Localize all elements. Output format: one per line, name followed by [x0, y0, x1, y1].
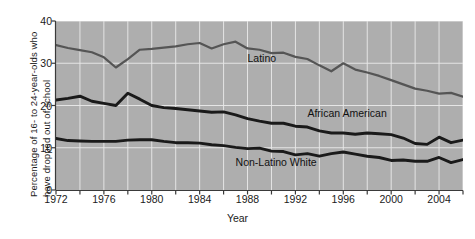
x-tick-label: 1996 [332, 193, 355, 205]
y-tick-label: 10 [30, 142, 52, 154]
y-tick-label: 30 [30, 57, 52, 69]
series-label-non-latino-white: Non-Latino White [236, 156, 317, 168]
x-tick-label: 1972 [44, 193, 67, 205]
y-tick-label: 20 [30, 100, 52, 112]
x-tick-label: 1984 [188, 193, 211, 205]
x-tick-label: 1980 [140, 193, 163, 205]
y-tick-label: 40 [30, 15, 52, 27]
x-tick-label: 1988 [236, 193, 259, 205]
x-tick-label: 1992 [284, 193, 307, 205]
series-line-latino [56, 42, 463, 97]
x-axis-label: Year [0, 212, 475, 224]
series-label-african-american: African American [307, 107, 386, 119]
x-tick-label: 2000 [379, 193, 402, 205]
chart-figure: Percentage of 16- to 24-year-olds who ha… [0, 0, 475, 239]
series-line-african-american [56, 93, 463, 144]
series-label-latino: Latino [248, 52, 277, 64]
x-tick-label: 2004 [427, 193, 450, 205]
x-tick-label: 1976 [92, 193, 115, 205]
